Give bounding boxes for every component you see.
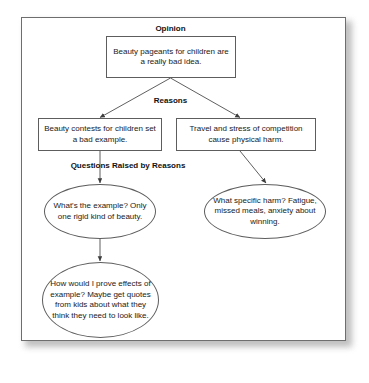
reason-right-box-text: Travel and stress of competition cause p… <box>177 124 315 145</box>
reason-left-box-text: Beauty contests for children set a bad e… <box>39 124 161 145</box>
reasons-label: Reasons <box>145 96 196 106</box>
opinion-box-text: Beauty pageants for children are a reall… <box>107 47 235 68</box>
opinion-box: Beauty pageants for children are a reall… <box>106 36 236 78</box>
question-right-ellipse-text: What specific harm? Fatigue, missed meal… <box>205 196 325 228</box>
question-left-ellipse-text: What's the example? Only one rigid kind … <box>45 201 155 222</box>
concept-map-diagram: Opinion Reasons Questions Raised by Reas… <box>0 0 369 383</box>
reason-left-box: Beauty contests for children set a bad e… <box>38 118 162 151</box>
questions-raised-label: Questions Raised by Reasons <box>58 161 198 171</box>
connector-reason-right-to-question-right <box>240 151 266 183</box>
reason-right-box: Travel and stress of competition cause p… <box>176 118 316 151</box>
opinion-label: Opinion <box>145 24 196 34</box>
question-right-ellipse: What specific harm? Fatigue, missed meal… <box>204 184 326 239</box>
question-bottom-ellipse: How would I prove effects of example? Ma… <box>42 262 159 338</box>
question-left-ellipse: What's the example? Only one rigid kind … <box>44 184 156 239</box>
question-bottom-ellipse-text: How would I prove effects of example? Ma… <box>43 279 158 321</box>
